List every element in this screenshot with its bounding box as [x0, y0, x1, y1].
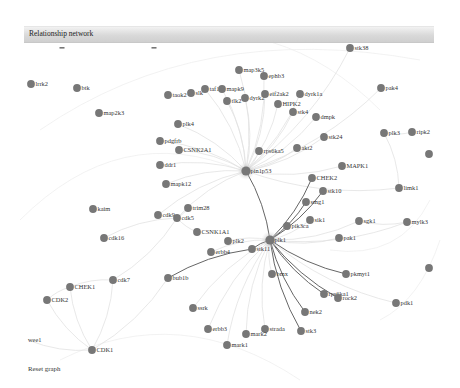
- node-plk3[interactable]: plk3: [380, 129, 400, 137]
- node-dot[interactable]: [268, 270, 276, 278]
- node-cdk9[interactable]: cdk9: [154, 211, 175, 219]
- node-csnk1a1[interactable]: CSNK1A1: [193, 228, 229, 236]
- node-dot[interactable]: [173, 214, 181, 222]
- node-chek1[interactable]: CHEK1: [66, 283, 95, 291]
- node-stk38[interactable]: stk38: [346, 44, 368, 52]
- node-dot[interactable]: [88, 346, 96, 354]
- node-dot[interactable]: [346, 44, 354, 52]
- node-dot[interactable]: [425, 264, 433, 272]
- node-dot[interactable]: [283, 222, 291, 230]
- node-partial_r2[interactable]: [425, 264, 433, 272]
- node-dot[interactable]: [306, 216, 314, 224]
- node-pak1[interactable]: pak1: [335, 234, 356, 242]
- node-dot[interactable]: [154, 211, 162, 219]
- node-dot[interactable]: [302, 198, 310, 206]
- node-dot[interactable]: [274, 100, 282, 108]
- node-mapk9[interactable]: mapk9: [218, 85, 244, 93]
- node-dot[interactable]: [218, 85, 226, 93]
- node-dot[interactable]: [334, 294, 342, 302]
- node-dot[interactable]: [301, 308, 309, 316]
- node-stk24[interactable]: stk24: [320, 133, 343, 141]
- node-erbb4[interactable]: erbb4: [207, 248, 231, 256]
- node-slk[interactable]: slk: [187, 89, 204, 97]
- node-ephb3[interactable]: ephb3: [260, 72, 284, 80]
- node-dot[interactable]: [164, 91, 172, 99]
- node-dot[interactable]: [235, 66, 243, 74]
- node-dot[interactable]: [109, 276, 117, 284]
- node-dot[interactable]: [377, 84, 385, 92]
- node-bub1b[interactable]: bub1b: [164, 274, 188, 282]
- node-dot[interactable]: [260, 72, 268, 80]
- node-cdk1[interactable]: CDK1: [88, 346, 113, 354]
- node-dot[interactable]: [223, 97, 231, 105]
- node-pak4[interactable]: pak4: [377, 84, 399, 92]
- node-dot[interactable]: [320, 133, 328, 141]
- node-wee1[interactable]: wee1: [28, 336, 41, 343]
- node-dot[interactable]: [335, 234, 343, 242]
- reset-graph-button[interactable]: Reset graph: [28, 365, 60, 372]
- node-sgk1[interactable]: sgk1: [355, 217, 375, 225]
- node-dyrk2[interactable]: dyrk2: [241, 94, 264, 102]
- node-partial_r1[interactable]: [425, 150, 433, 158]
- node-tlk2[interactable]: tlk2: [223, 97, 241, 105]
- node-plk4[interactable]: plk4: [174, 120, 195, 128]
- node-dot[interactable]: [355, 217, 363, 225]
- node-dot[interactable]: [319, 187, 327, 195]
- node-trim28[interactable]: trim28: [184, 204, 209, 212]
- node-dot[interactable]: [193, 228, 201, 236]
- node-dot[interactable]: [66, 283, 74, 291]
- node-dot[interactable]: [296, 90, 304, 98]
- node-btk[interactable]: btk: [73, 84, 90, 92]
- node-eif2ak2[interactable]: eif2ak2: [261, 90, 289, 98]
- node-dot[interactable]: [162, 180, 170, 188]
- node-ssrk[interactable]: ssrk: [189, 304, 209, 312]
- node-dot[interactable]: [380, 129, 388, 137]
- node-dot[interactable]: [342, 270, 350, 278]
- node-dot[interactable]: [395, 184, 403, 192]
- node-stk4[interactable]: stk4: [289, 108, 309, 116]
- node-pik3ca[interactable]: pik3ca: [283, 222, 309, 230]
- node-erbb3[interactable]: erbb3: [204, 325, 227, 333]
- node-dot[interactable]: [187, 89, 195, 97]
- node-dot[interactable]: [207, 248, 215, 256]
- node-map3k5[interactable]: map3k5: [235, 66, 264, 74]
- node-smg1[interactable]: smg1: [302, 198, 324, 206]
- node-cdk16[interactable]: cdk16: [100, 234, 124, 242]
- node-dot[interactable]: [201, 85, 209, 93]
- node-mapk12[interactable]: mapk12: [162, 180, 191, 188]
- node-mylk3[interactable]: mylk3: [403, 218, 428, 226]
- node-lrrk2[interactable]: lrrk2: [27, 80, 48, 88]
- node-dot[interactable]: [297, 327, 305, 335]
- node-ddr1[interactable]: ddr1: [156, 161, 176, 169]
- node-dot[interactable]: [338, 162, 346, 170]
- node-map2k3[interactable]: map2k3: [95, 109, 124, 117]
- node-dot[interactable]: [175, 146, 183, 154]
- node-dot[interactable]: [156, 137, 164, 145]
- node-dot[interactable]: [164, 274, 172, 282]
- node-dot[interactable]: [174, 120, 182, 128]
- node-pdk1[interactable]: pdk1: [392, 299, 413, 307]
- node-dot[interactable]: [89, 205, 97, 213]
- node-dot[interactable]: [95, 109, 103, 117]
- node-dmpk[interactable]: dmpk: [312, 113, 336, 121]
- node-dot[interactable]: [255, 147, 263, 155]
- node-hipk2[interactable]: HIPK2: [274, 100, 301, 108]
- node-dot[interactable]: [320, 290, 328, 298]
- node-dot[interactable]: [189, 304, 197, 312]
- node-taf1[interactable]: taf1: [201, 85, 219, 93]
- node-chek2[interactable]: CHEK2: [308, 174, 337, 182]
- node-dot[interactable]: [248, 245, 256, 253]
- node-kaim[interactable]: kaim: [89, 205, 110, 213]
- node-rps6ka5[interactable]: rps6ka5: [255, 147, 284, 155]
- node-mapk1[interactable]: MAPK1: [338, 162, 368, 170]
- node-dot[interactable]: [408, 128, 416, 136]
- node-dot[interactable]: [223, 341, 231, 349]
- node-dyrk1a[interactable]: dyrk1a: [296, 90, 322, 98]
- node-pkmyt1[interactable]: pkmyt1: [342, 270, 370, 278]
- node-dot[interactable]: [224, 237, 232, 245]
- node-dot[interactable]: [261, 90, 269, 98]
- node-mark1[interactable]: mark1: [223, 341, 248, 349]
- node-dot[interactable]: [308, 174, 316, 182]
- network-graph[interactable]: lrrk2btkmap2k3taok2slktaf1mapk9map3k5eph…: [0, 0, 460, 388]
- node-dot[interactable]: [27, 80, 35, 88]
